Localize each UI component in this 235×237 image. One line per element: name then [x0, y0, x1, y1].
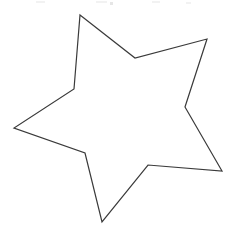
- star-drawing: [0, 0, 235, 237]
- image-canvas: [0, 0, 235, 237]
- star-outline-path: [14, 15, 222, 222]
